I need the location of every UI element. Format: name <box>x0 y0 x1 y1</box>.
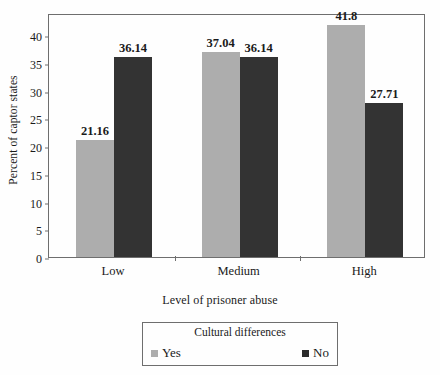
legend-swatch-icon <box>302 350 309 357</box>
y-axis-tick-label: 25 <box>2 113 49 128</box>
y-axis-tick-label: 5 <box>2 224 49 239</box>
y-axis-tick-mark <box>45 64 49 65</box>
legend-title: Cultural differences <box>143 326 337 338</box>
bar-high-no <box>365 103 403 257</box>
x-axis-tick-mark <box>300 256 301 261</box>
bar-high-yes <box>327 25 365 257</box>
bar-value-label: 21.16 <box>81 124 109 139</box>
legend-entry-label: No <box>313 345 329 361</box>
y-axis-tick-mark <box>45 231 49 232</box>
y-axis-tick-label: 40 <box>2 30 49 45</box>
legend-entry-no: No <box>302 345 329 361</box>
y-axis-tick-mark <box>45 120 49 121</box>
y-axis-tick-mark <box>45 148 49 149</box>
chart-figure: Percent of captor states 051015202530354… <box>0 0 440 375</box>
y-axis-tick-mark <box>45 175 49 176</box>
legend-swatch-icon <box>151 350 158 357</box>
x-axis-tick-mark <box>175 256 176 261</box>
bar-value-label: 36.14 <box>119 41 147 56</box>
y-axis-tick-mark <box>45 259 49 260</box>
bar-medium-no <box>240 57 278 257</box>
y-axis-tick-label: 10 <box>2 196 49 211</box>
bar-value-label: 36.14 <box>245 41 273 56</box>
x-axis-category-high: High <box>352 264 377 279</box>
y-axis-tick-mark <box>45 203 49 204</box>
bar-low-no <box>114 57 152 257</box>
x-axis-category-low: Low <box>102 264 125 279</box>
y-axis-tick-label: 35 <box>2 57 49 72</box>
legend-entries: YesNo <box>151 345 329 361</box>
x-axis-title: Level of prisoner abuse <box>0 293 440 308</box>
legend-entry-yes: Yes <box>151 345 181 361</box>
y-axis-tick-mark <box>45 37 49 38</box>
bar-low-yes <box>76 140 114 257</box>
bar-value-label: 27.71 <box>370 87 398 102</box>
plot-area: 0510152025303540 21.1636.1437.0436.1441.… <box>48 14 425 258</box>
y-axis-tick-label: 0 <box>2 252 49 267</box>
legend-entry-label: Yes <box>162 345 181 361</box>
bar-medium-yes <box>202 52 240 257</box>
bar-value-label: 37.04 <box>207 36 235 51</box>
y-axis-tick-label: 15 <box>2 168 49 183</box>
bar-value-label: 41.8 <box>335 9 357 24</box>
y-axis-tick-label: 30 <box>2 85 49 100</box>
y-axis-tick-mark <box>45 92 49 93</box>
legend: Cultural differences YesNo <box>142 322 338 366</box>
x-axis-category-medium: Medium <box>217 264 259 279</box>
y-axis-tick-label: 20 <box>2 141 49 156</box>
